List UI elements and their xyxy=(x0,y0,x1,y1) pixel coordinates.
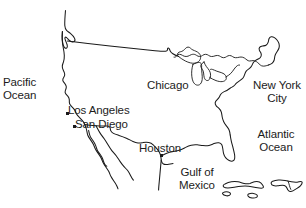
atlantic-ocean-line1: Atlantic xyxy=(258,128,295,140)
mexico-gulf-coast xyxy=(159,160,162,190)
cuba-island xyxy=(223,182,263,189)
pacific-ocean-line2: Ocean xyxy=(3,89,36,101)
chicago-label: Chicago xyxy=(147,79,189,91)
northern-border xyxy=(68,41,179,56)
los-angeles-city-dot xyxy=(66,112,69,115)
pacific-ocean-line1: Pacific xyxy=(3,76,36,88)
hispaniola-island xyxy=(271,180,302,192)
houston-label: Houston xyxy=(139,142,181,154)
new-york-city-line2: City xyxy=(267,92,286,104)
gulf-of-mexico-line2: Mexico xyxy=(179,179,215,191)
pacific-ocean-label: PacificOcean xyxy=(3,76,36,101)
san-diego-city-dot xyxy=(73,125,76,128)
los-angeles-label: Los Angeles xyxy=(68,104,130,116)
baja-california-east xyxy=(89,130,107,166)
gulf-of-mexico-line1: Gulf of xyxy=(180,166,213,178)
st-lawrence-river xyxy=(226,65,240,77)
gulf-of-mexico-label: Gulf ofMexico xyxy=(170,166,224,191)
new-york-city-line1: New York xyxy=(253,79,301,91)
small-cay-island xyxy=(223,192,231,196)
jamaica-island xyxy=(248,193,258,198)
lake-superior xyxy=(177,47,200,63)
atlantic-ocean-line2: Ocean xyxy=(259,141,292,153)
lake-erie-ontario xyxy=(210,69,227,81)
atlantic-ocean-label: AtlanticOcean xyxy=(248,128,304,153)
hispaniola-divide xyxy=(288,181,291,189)
san-diego-label: San Diego xyxy=(75,118,128,130)
us-mainland-outline xyxy=(62,11,75,49)
northeast-border xyxy=(174,54,269,66)
houston-city-dot xyxy=(160,154,163,157)
us-map-figure: PacificOcean Los Angeles San Diego Chica… xyxy=(0,0,306,208)
new-york-city-label: New YorkCity xyxy=(249,79,305,104)
